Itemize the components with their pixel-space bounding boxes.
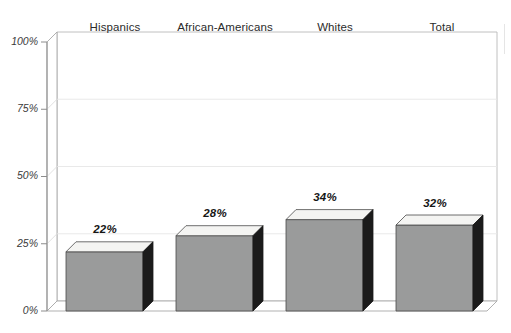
- bar-chart: Hispanics African-Americans Whites Total…: [0, 0, 511, 333]
- bar-top-face: [286, 210, 373, 220]
- bar-top-face: [396, 215, 483, 225]
- bar-front-face: [66, 252, 143, 311]
- scan-artifact-line: [504, 24, 505, 54]
- y-axis-tick-label-50: 50%: [0, 169, 38, 181]
- bar-total[interactable]: [396, 215, 483, 311]
- bar-value-label-hispanics: 22%: [70, 223, 140, 235]
- category-label-hispanics: Hispanics: [60, 21, 170, 33]
- bar-african-americans[interactable]: [176, 226, 263, 311]
- bar-front-face: [176, 236, 253, 311]
- y-axis-tick-label-0: 0%: [0, 304, 38, 316]
- y-axis-tick-label-100: 100%: [0, 35, 38, 47]
- bar-side-face: [363, 210, 373, 311]
- category-label-whites: Whites: [285, 21, 385, 33]
- bar-top-face: [176, 226, 263, 236]
- bar-value-label-whites: 34%: [290, 191, 360, 203]
- bar-side-face: [473, 215, 483, 311]
- y-axis-tick-label-25: 25%: [0, 237, 38, 249]
- bar-whites[interactable]: [286, 210, 373, 311]
- bar-side-face: [253, 226, 263, 311]
- bar-value-label-african-americans: 28%: [180, 207, 250, 219]
- category-label-african-americans: African-Americans: [165, 21, 285, 33]
- category-label-total: Total: [392, 21, 492, 33]
- bar-front-face: [396, 225, 473, 311]
- bar-side-face: [143, 242, 153, 311]
- bar-value-label-total: 32%: [400, 197, 470, 209]
- bar-top-face: [66, 242, 153, 252]
- bar-front-face: [286, 220, 363, 311]
- bar-hispanics[interactable]: [66, 242, 153, 311]
- y-axis-tick-label-75: 75%: [0, 102, 38, 114]
- chart-plot-area: [0, 0, 511, 333]
